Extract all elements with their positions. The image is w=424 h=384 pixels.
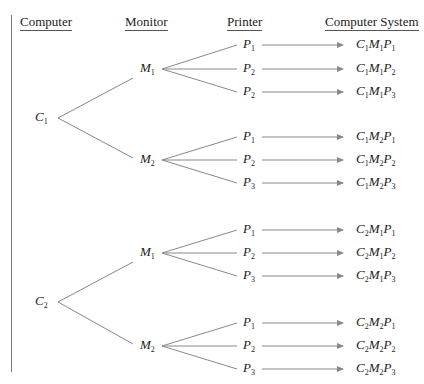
monitor-node: M2 (140, 338, 155, 357)
computer-system-result: C2M2P1 (356, 315, 395, 334)
printer-node: P3 (243, 268, 255, 287)
branch-line (58, 118, 133, 158)
computer-system-result: C1M1P1 (356, 37, 395, 56)
computer-node: C1 (35, 110, 48, 129)
computer-system-result: C2M1P2 (356, 245, 395, 264)
printer-node: P2 (243, 152, 255, 171)
branch-line (162, 323, 237, 346)
monitor-node: M1 (140, 245, 155, 264)
printer-node: P1 (243, 37, 255, 56)
branch-line (162, 230, 237, 253)
branch-line (58, 302, 133, 344)
branch-line (162, 253, 237, 276)
printer-node: P1 (243, 222, 255, 241)
branch-line (58, 78, 133, 118)
computer-system-result: C2M2P3 (356, 361, 395, 380)
computer-system-result: C1M1P3 (356, 84, 395, 103)
printer-node: P1 (243, 129, 255, 148)
branch-line (162, 346, 237, 369)
printer-node: P2 (243, 338, 255, 357)
branch-line (162, 69, 237, 92)
printer-node: P1 (243, 315, 255, 334)
printer-node: P2 (243, 61, 255, 80)
branch-line (162, 45, 237, 69)
computer-system-result: C1M2P3 (356, 175, 395, 194)
computer-system-result: C1M1P2 (356, 61, 395, 80)
computer-system-result: C2M2P2 (356, 338, 395, 357)
printer-node: P2 (243, 84, 255, 103)
computer-node: C2 (35, 294, 48, 313)
branch-line (58, 262, 133, 302)
printer-node: P3 (243, 175, 255, 194)
monitor-node: M2 (140, 152, 155, 171)
printer-node: P2 (243, 245, 255, 264)
computer-system-result: C2M1P3 (356, 268, 395, 287)
branch-line (162, 160, 237, 183)
tree-diagram: Computer Monitor Printer Computer System… (0, 0, 424, 384)
branch-line (162, 137, 237, 160)
computer-system-result: C1M2P1 (356, 129, 395, 148)
monitor-node: M1 (140, 61, 155, 80)
printer-node: P3 (243, 361, 255, 380)
computer-system-result: C2M1P1 (356, 222, 395, 241)
computer-system-result: C1M2P2 (356, 152, 395, 171)
